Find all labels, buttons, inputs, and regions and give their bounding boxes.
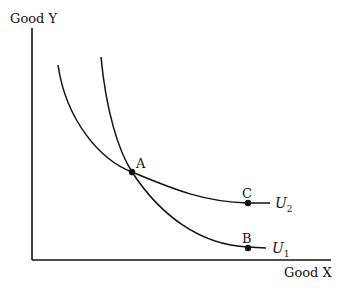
curve-u2-name: U	[275, 195, 287, 211]
curve-u2	[58, 65, 270, 203]
indifference-diagram	[0, 0, 344, 291]
point-c-label: C	[242, 187, 252, 200]
y-axis-label: Good Y	[10, 12, 57, 25]
curve-u1	[101, 57, 266, 248]
point-a	[129, 169, 135, 175]
point-a-label: A	[136, 157, 145, 170]
curve-u2-label: U2	[275, 196, 293, 214]
curve-u1-name: U	[272, 240, 284, 256]
curve-u2-subscript: 2	[287, 204, 293, 214]
curve-u1-label: U1	[272, 241, 290, 259]
curve-u1-subscript: 1	[284, 249, 290, 259]
x-axis-label: Good X	[284, 266, 332, 279]
point-b-label: B	[242, 232, 252, 245]
